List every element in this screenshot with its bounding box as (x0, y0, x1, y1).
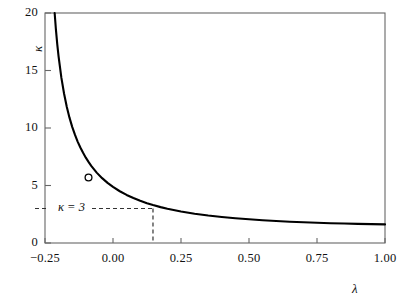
open-circle-marker (85, 174, 92, 181)
y-tick-label-0: 0 (0, 235, 38, 250)
x-axis-title: λ (352, 281, 358, 297)
annotation-label-0: κ = 3 (58, 200, 85, 215)
x-tick-label-2: 0.25 (151, 251, 211, 266)
y-axis-title: κ (30, 46, 46, 52)
y-tick-label-4: 20 (0, 5, 38, 20)
x-tick-label-0: −0.25 (15, 251, 75, 266)
x-tick-label-5: 1.00 (355, 251, 415, 266)
chart-figure: 05101520 −0.250.000.250.500.751.00 κ = 3… (0, 0, 415, 307)
data-markers (85, 174, 92, 181)
x-tick-label-1: 0.00 (83, 251, 143, 266)
y-tick-label-3: 15 (0, 63, 38, 78)
x-tick-label-4: 0.75 (287, 251, 347, 266)
y-tick-label-2: 10 (0, 120, 38, 135)
x-tick-label-3: 0.50 (219, 251, 279, 266)
y-tick-label-1: 5 (0, 178, 38, 193)
